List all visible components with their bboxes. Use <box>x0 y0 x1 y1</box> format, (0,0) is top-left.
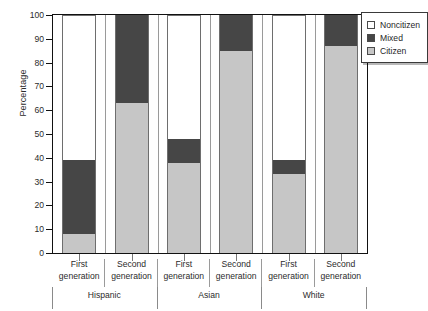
legend-label: Citizen <box>380 46 406 56</box>
legend-item: Citizen <box>367 44 420 57</box>
y-axis-tick-label: 90 <box>34 34 44 44</box>
generation-label: Secondgeneration <box>315 259 367 282</box>
bar-segment-noncitizen <box>62 15 96 160</box>
legend-swatch-citizen-icon <box>367 47 375 55</box>
group-label-asian: Asian <box>157 290 262 300</box>
bar-segment-mixed <box>219 15 253 51</box>
generation-label: Firstgeneration <box>53 259 105 282</box>
column-separator <box>158 15 159 253</box>
bar-segment-mixed <box>324 15 358 46</box>
group-divider <box>157 287 158 309</box>
y-axis-tick-label: 20 <box>34 200 44 210</box>
bar-segment-mixed <box>115 15 149 103</box>
y-axis-tick-label: 0 <box>39 248 44 258</box>
group-label-hispanic: Hispanic <box>52 290 157 300</box>
y-axis-tick-label: 100 <box>30 10 44 20</box>
bar-segment-citizen <box>115 103 149 253</box>
plot-inner: 0102030405060708090100 <box>53 15 367 253</box>
bar-segment-mixed <box>272 160 306 174</box>
x-axis-tick <box>236 254 237 261</box>
y-axis-title: Percentage <box>18 38 28 148</box>
y-axis-tick <box>46 15 53 16</box>
legend-item: Noncitizen <box>367 18 420 31</box>
plot-area: 0102030405060708090100 <box>52 14 368 254</box>
group-label-row: HispanicAsianWhite <box>52 287 368 309</box>
bar-5 <box>272 15 306 253</box>
column-separator <box>262 15 263 253</box>
bar-2 <box>115 15 149 253</box>
generation-divider <box>157 259 158 287</box>
y-axis-tick <box>46 86 53 87</box>
generation-label: Secondgeneration <box>105 259 157 282</box>
generation-label-row: FirstgenerationSecondgenerationFirstgene… <box>52 259 368 287</box>
y-axis-tick <box>46 182 53 183</box>
bar-4 <box>219 15 253 253</box>
column-separator <box>315 15 316 253</box>
x-axis-tick <box>132 254 133 261</box>
bar-segment-mixed <box>167 139 201 163</box>
y-axis-tick <box>46 110 53 111</box>
bar-segment-mixed <box>62 160 96 234</box>
legend-swatch-mixed-icon <box>367 34 375 42</box>
y-axis-tick <box>46 39 53 40</box>
group-divider <box>261 287 262 309</box>
y-axis-tick-label: 60 <box>34 105 44 115</box>
generation-divider <box>104 259 105 287</box>
group-label-white: White <box>261 290 366 300</box>
y-axis-tick <box>46 205 53 206</box>
y-axis-tick <box>46 158 53 159</box>
generation-divider <box>314 259 315 287</box>
generation-label: Secondgeneration <box>210 259 262 282</box>
y-axis-tick <box>46 63 53 64</box>
legend-item: Mixed <box>367 31 420 44</box>
bar-segment-noncitizen <box>167 15 201 139</box>
generation-label: Firstgeneration <box>158 259 210 282</box>
column-separator <box>210 15 211 253</box>
y-axis-tick <box>46 134 53 135</box>
legend-swatch-noncitizen-icon <box>367 21 375 29</box>
x-axis-tick <box>79 254 80 261</box>
bar-segment-citizen <box>167 163 201 253</box>
generation-divider <box>261 259 262 287</box>
bar-segment-citizen <box>62 234 96 253</box>
y-axis-tick-label: 80 <box>34 58 44 68</box>
legend-label: Mixed <box>380 33 403 43</box>
bar-1 <box>62 15 96 253</box>
generation-label: Firstgeneration <box>262 259 314 282</box>
x-axis-tick <box>289 254 290 261</box>
y-axis-tick-label: 50 <box>34 129 44 139</box>
x-axis: FirstgenerationSecondgenerationFirstgene… <box>52 254 368 311</box>
bar-3 <box>167 15 201 253</box>
y-axis-tick-label: 30 <box>34 177 44 187</box>
x-axis-tick <box>184 254 185 261</box>
column-separator <box>105 15 106 253</box>
legend: Noncitizen Mixed Citizen <box>361 12 428 63</box>
y-axis-tick <box>46 229 53 230</box>
y-axis-tick-label: 70 <box>34 81 44 91</box>
bar-segment-citizen <box>219 51 253 253</box>
legend-label: Noncitizen <box>380 20 420 30</box>
y-axis-tick-label: 10 <box>34 224 44 234</box>
generation-divider <box>209 259 210 287</box>
y-axis-tick-label: 40 <box>34 153 44 163</box>
x-axis-tick <box>341 254 342 261</box>
bar-segment-citizen <box>324 46 358 253</box>
group-divider <box>366 287 367 309</box>
bar-segment-citizen <box>272 174 306 253</box>
bar-6 <box>324 15 358 253</box>
bar-segment-noncitizen <box>272 15 306 160</box>
group-divider <box>52 287 53 309</box>
